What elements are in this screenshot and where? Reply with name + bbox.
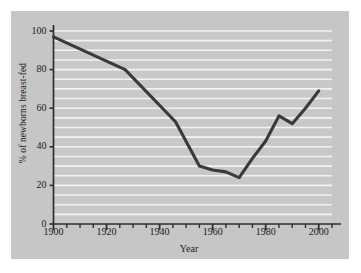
x-axis-title: Year: [53, 243, 325, 254]
y-tick-label: 20: [21, 179, 47, 190]
x-tick-label: 2000: [299, 226, 339, 237]
x-tick-label: 1940: [140, 226, 180, 237]
x-tick-label: 1980: [246, 226, 286, 237]
chart-figure: % of newborns breast-fed Year 0204060801…: [0, 0, 361, 273]
y-axis-title: % of newborns breast-fed: [18, 28, 28, 198]
x-tick-label: 1900: [34, 226, 74, 237]
y-tick-label: 100: [21, 25, 47, 36]
y-tick-label: 60: [21, 102, 47, 113]
y-tick-label: 40: [21, 140, 47, 151]
x-tick-label: 1920: [87, 226, 127, 237]
x-tick-label: 1960: [193, 226, 233, 237]
y-tick-label: 80: [21, 63, 47, 74]
